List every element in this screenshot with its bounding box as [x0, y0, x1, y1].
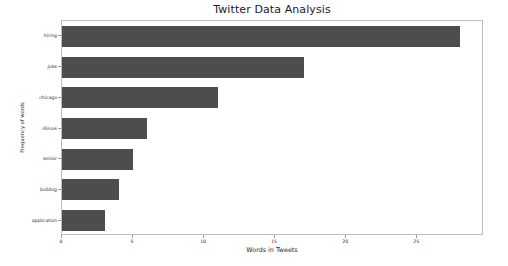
- y-tick-label-application: application: [2, 217, 57, 222]
- plot-area: [61, 20, 483, 235]
- bar-illinois: [62, 118, 147, 139]
- x-tick-mark: [132, 235, 133, 238]
- bar-band: [62, 87, 482, 108]
- x-tick-label-20: 20: [342, 239, 348, 244]
- x-tick-label-0: 0: [60, 239, 63, 244]
- y-tick-mark: [58, 97, 61, 98]
- x-tick-label-25: 25: [413, 239, 419, 244]
- chart-title: Twitter Data Analysis: [61, 3, 483, 16]
- y-tick-mark: [58, 158, 61, 159]
- bar-jobs: [62, 57, 304, 78]
- y-tick-label-bulldog: bulldog: [2, 186, 57, 191]
- bar-band: [62, 26, 482, 47]
- y-axis-tick-labels: hiringjobschicagoillinoisseniorbulldogap…: [0, 20, 57, 235]
- y-tick-label-chicago: chicago: [2, 94, 57, 99]
- x-tick-label-10: 10: [200, 239, 206, 244]
- bar-chicago: [62, 87, 218, 108]
- x-tick-mark: [274, 235, 275, 238]
- bar-band: [62, 179, 482, 200]
- x-tick-mark: [416, 235, 417, 238]
- bar-band: [62, 149, 482, 170]
- chart-figure: Twitter Data Analysis Frequency of words…: [0, 0, 508, 266]
- bar-bulldog: [62, 179, 119, 200]
- x-tick-mark: [345, 235, 346, 238]
- y-tick-label-jobs: jobs: [2, 64, 57, 69]
- x-tick-label-15: 15: [271, 239, 277, 244]
- y-tick-label-senior: senior: [2, 156, 57, 161]
- bar-hiring: [62, 26, 460, 47]
- bar-band: [62, 118, 482, 139]
- x-tick-mark: [61, 235, 62, 238]
- y-tick-mark: [58, 128, 61, 129]
- y-tick-label-illinois: illinois: [2, 125, 57, 130]
- y-tick-mark: [58, 35, 61, 36]
- x-tick-label-5: 5: [131, 239, 134, 244]
- x-tick-mark: [203, 235, 204, 238]
- bar-band: [62, 57, 482, 78]
- bar-senior: [62, 149, 133, 170]
- bar-band: [62, 210, 482, 231]
- y-tick-mark: [58, 220, 61, 221]
- y-tick-mark: [58, 189, 61, 190]
- bars-layer: [62, 21, 482, 234]
- y-tick-mark: [58, 66, 61, 67]
- bar-application: [62, 210, 105, 231]
- y-tick-label-hiring: hiring: [2, 33, 57, 38]
- x-axis-label: Words in Tweets: [61, 246, 483, 254]
